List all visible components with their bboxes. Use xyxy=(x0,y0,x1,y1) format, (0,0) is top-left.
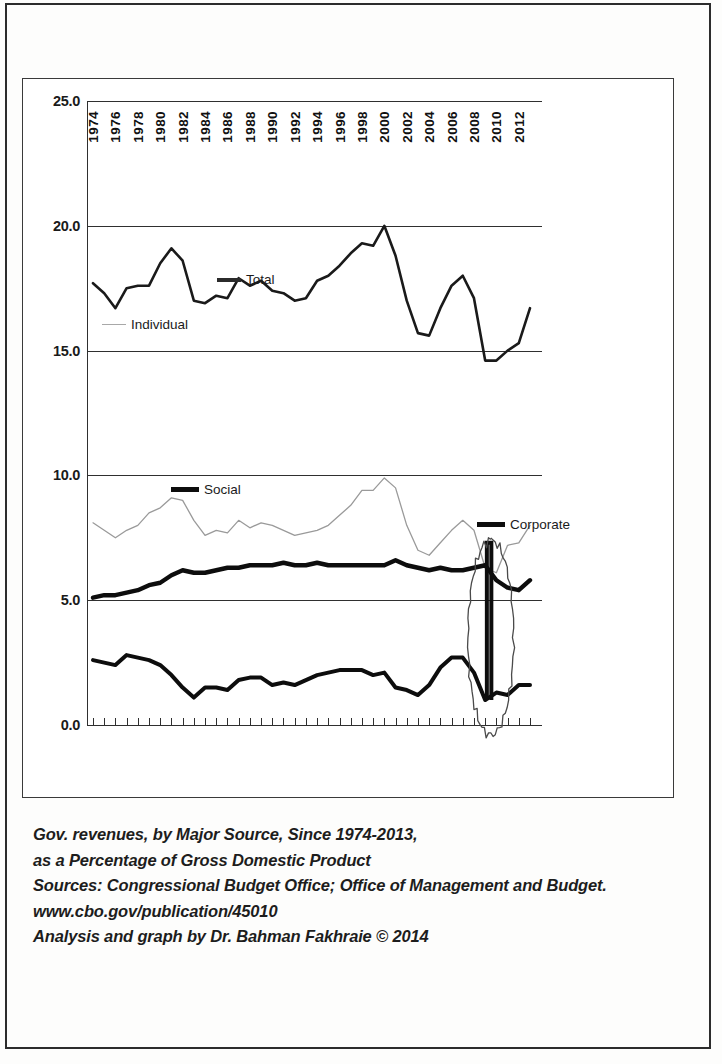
caption-line-1: Gov. revenues, by Major Source, Since 19… xyxy=(33,822,693,848)
legend-item-total[interactable]: Total xyxy=(217,272,275,287)
legend-line-swatch xyxy=(102,324,126,326)
legend-label: Social xyxy=(204,482,241,497)
scanned-page: 25.020.015.010.05.00.0 19741976197819801… xyxy=(0,0,722,1064)
y-axis-tick-label: 25.0 xyxy=(53,93,80,109)
caption-line-3: Sources: Congressional Budget Office; Of… xyxy=(33,873,693,899)
legend-line-swatch xyxy=(171,487,199,491)
caption-line-2: as a Percentage of Gross Domestic Produc… xyxy=(33,848,693,874)
y-axis-tick-label: 15.0 xyxy=(53,343,80,359)
legend-item-individual[interactable]: Individual xyxy=(102,317,188,332)
caption-block: Gov. revenues, by Major Source, Since 19… xyxy=(33,822,693,950)
legend-line-swatch xyxy=(217,278,241,282)
y-axis-tick-label: 0.0 xyxy=(61,717,80,733)
legend-item-corporate[interactable]: Corporate xyxy=(477,517,570,532)
hand-drawn-ellipse-icon xyxy=(468,538,515,738)
plot-area: 25.020.015.010.05.00.0 19741976197819801… xyxy=(87,101,542,725)
legend-line-swatch xyxy=(477,522,505,526)
y-axis-tick-label: 10.0 xyxy=(53,467,80,483)
legend-label: Individual xyxy=(131,317,188,332)
caption-line-4: www.cbo.gov/publication/45010 xyxy=(33,899,693,925)
y-axis-tick-label: 5.0 xyxy=(61,592,80,608)
legend-label: Total xyxy=(246,272,275,287)
ellipse-annotation xyxy=(87,101,542,765)
y-axis-tick-label: 20.0 xyxy=(53,218,80,234)
legend-item-social[interactable]: Social xyxy=(171,482,241,497)
chart-frame: 25.020.015.010.05.00.0 19741976197819801… xyxy=(22,78,674,798)
legend-label: Corporate xyxy=(510,517,570,532)
caption-line-5: Analysis and graph by Dr. Bahman Fakhrai… xyxy=(33,924,693,950)
